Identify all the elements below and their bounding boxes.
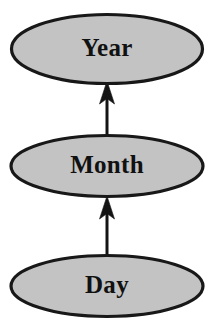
- diagram-canvas: Year Month Day: [0, 0, 215, 325]
- hierarchy-diagram: Year Month Day: [0, 0, 215, 325]
- node-year-label: Year: [81, 34, 132, 61]
- edge-month-to-year[interactable]: [100, 81, 115, 136]
- node-day[interactable]: Day: [11, 256, 203, 317]
- node-year[interactable]: Year: [12, 15, 203, 84]
- node-month[interactable]: Month: [11, 136, 203, 197]
- node-day-label: Day: [85, 271, 129, 298]
- edge-day-to-month[interactable]: [100, 196, 115, 256]
- node-month-label: Month: [70, 151, 144, 178]
